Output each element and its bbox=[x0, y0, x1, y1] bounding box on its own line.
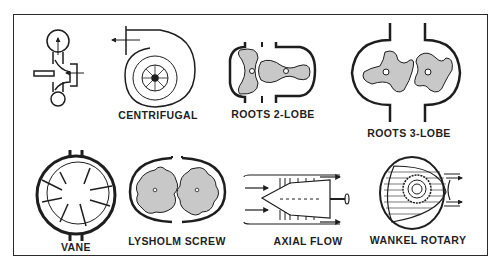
roots-3-lobe-view bbox=[352, 23, 460, 122]
label-roots-2-lobe: ROOTS 2-LOBE bbox=[231, 108, 315, 120]
label-lysholm-screw: LYSHOLM SCREW bbox=[128, 235, 226, 247]
centrifugal-volute-view bbox=[112, 26, 195, 107]
label-wankel-rotary: WANKEL ROTARY bbox=[370, 234, 467, 246]
wankel-rotary-view bbox=[380, 157, 462, 229]
label-vane: VANE bbox=[61, 241, 91, 253]
label-axial-flow: AXIAL FLOW bbox=[273, 235, 342, 247]
centrifugal-side-view bbox=[34, 30, 84, 106]
roots-2-lobe-view bbox=[230, 42, 315, 103]
axial-flow-view bbox=[244, 175, 349, 224]
label-roots-3-lobe: ROOTS 3-LOBE bbox=[367, 127, 451, 139]
vane-view bbox=[37, 150, 115, 241]
label-centrifugal: CENTRIFUGAL bbox=[118, 109, 198, 121]
lysholm-screw-view bbox=[130, 156, 225, 222]
